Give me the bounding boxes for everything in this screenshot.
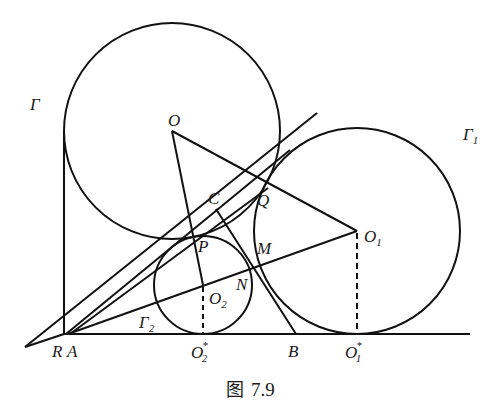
- label-point-A: A: [66, 342, 78, 361]
- label-point-N: N: [235, 275, 249, 294]
- label-point-P: P: [197, 237, 208, 256]
- line-R-tangent: [25, 113, 317, 347]
- segment-O-O1: [172, 131, 357, 231]
- geometry-figure: Γ Γ1 Γ2 O O1 O2 O*1 O*2 R A B C P Q M N …: [0, 0, 504, 409]
- caption-prefix: 图: [226, 379, 244, 400]
- label-point-O2-star: O*2: [191, 339, 208, 364]
- label-point-O2: O2: [209, 289, 227, 310]
- segment-C-B: [216, 209, 296, 334]
- caption-number: 7.9: [251, 379, 275, 400]
- label-point-O1-star: O*1: [345, 339, 362, 364]
- label-point-B: B: [288, 342, 299, 361]
- label-gamma1: Γ1: [462, 125, 478, 146]
- line-A-O1: [68, 231, 357, 334]
- label-point-Q: Q: [257, 191, 269, 210]
- label-point-O: O: [168, 111, 180, 130]
- label-gamma: Γ: [29, 95, 41, 114]
- label-gamma2: Γ2: [138, 313, 155, 334]
- label-point-C: C: [208, 189, 220, 208]
- label-point-M: M: [256, 239, 272, 258]
- label-point-O1: O1: [364, 227, 382, 248]
- label-point-R: R: [51, 342, 63, 361]
